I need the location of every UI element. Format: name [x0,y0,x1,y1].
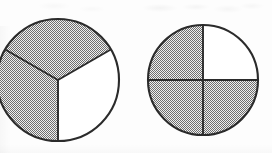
fraction-circles-figure [0,0,272,153]
right-circle-group [148,25,258,135]
left-circle-group [0,19,119,141]
fraction-circles-svg [0,0,272,153]
